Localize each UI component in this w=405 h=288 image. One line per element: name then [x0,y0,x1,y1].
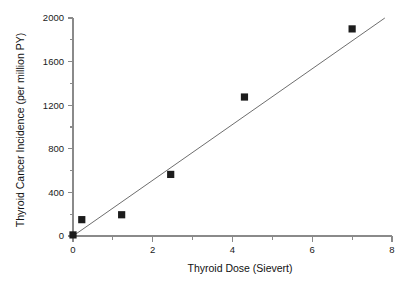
data-point-marker [78,216,85,223]
regression-line [73,18,385,236]
y-tick-label: 0 [59,230,64,241]
x-tick-label: 8 [389,244,394,255]
x-tick-label: 2 [150,244,155,255]
data-point-marker [118,211,125,218]
chart-figure: 040080012001600200002468 Thyroid Dose (S… [0,0,405,288]
data-points [69,25,355,238]
data-point-marker [241,93,248,100]
y-tick-label: 400 [48,187,64,198]
scatter-plot: 040080012001600200002468 Thyroid Dose (S… [0,0,405,288]
y-tick-label: 1600 [43,56,64,67]
x-tick-label: 6 [310,244,315,255]
fit-line [73,18,385,236]
data-point-marker [349,25,356,32]
x-tick-label: 0 [70,244,75,255]
data-point-marker [167,171,174,178]
y-tick-label: 1200 [43,100,64,111]
data-point-marker [69,231,76,238]
axes [68,18,393,242]
x-axis-title: Thyroid Dose (Sievert) [187,262,292,274]
y-tick-label: 800 [48,143,64,154]
y-tick-label: 2000 [43,12,64,23]
y-axis-title: Thyroid Cancer Incidence (per million PY… [14,33,26,227]
x-tick-label: 4 [230,244,235,255]
